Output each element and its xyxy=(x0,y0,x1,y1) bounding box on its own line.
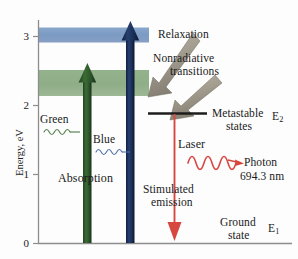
y-tick-label-0: 0 xyxy=(17,237,29,249)
photon-label: Photon xyxy=(244,156,277,168)
laser-emission-arrow xyxy=(168,114,182,241)
ground-energy-symbol: E1 xyxy=(268,222,279,237)
ground-label-line2: state xyxy=(228,229,250,241)
absorption-label: Absorption xyxy=(58,172,113,185)
ground-symbol-subscript: 1 xyxy=(275,227,279,236)
nonradiative-label-line2: transitions xyxy=(170,65,219,77)
ground-label-line1: Ground xyxy=(220,216,256,228)
metastable-label-line1: Metastable xyxy=(212,107,263,119)
laser-label: Laser xyxy=(178,138,205,151)
y-tick-label-3: 3 xyxy=(17,30,29,42)
green-pump-label: Green xyxy=(40,113,69,125)
y-axis xyxy=(33,20,39,244)
y-tick-label-2: 2 xyxy=(17,99,29,111)
stimulated-label-line1: Stimulated xyxy=(143,183,194,195)
blue-pump-label: Blue xyxy=(93,133,115,145)
relaxation-label: Relaxation xyxy=(158,28,209,40)
green-photon-squiggle xyxy=(44,130,80,135)
nonradiative-label-line1: Nonradiative xyxy=(153,52,214,64)
metastable-energy-symbol: E2 xyxy=(272,110,283,125)
photon-wave xyxy=(188,157,244,170)
metastable-symbol-subscript: 2 xyxy=(279,115,283,124)
metastable-label-line2: states xyxy=(226,120,252,132)
blue-photon-squiggle xyxy=(96,150,130,155)
blue-pump-arrow xyxy=(122,21,140,243)
energy-level-diagram: 3 2 1 0 Energy, eV Green Blue Absorption… xyxy=(0,0,298,259)
photon-wavelength-label: 694.3 nm xyxy=(240,170,284,182)
stimulated-label-line2: emission xyxy=(151,196,193,208)
y-axis-title: Energy, eV xyxy=(14,129,25,176)
